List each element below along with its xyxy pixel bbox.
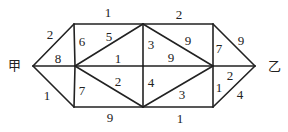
edge-weight-label: 2 [115,74,122,89]
edge-weight-label: 1 [44,88,51,103]
edge-weight-label: 9 [238,33,245,48]
node-label-jia: 甲 [8,58,21,73]
edge-A-B [74,24,75,66]
edge-jia-C [33,66,74,107]
edge-weight-label: 2 [227,68,234,83]
edge-weight-label: 1 [115,51,122,66]
edge-weight-label: 1 [105,5,112,20]
edge-weight-label: 3 [148,37,155,52]
edge-weight-label: 2 [176,7,183,22]
edge-jia-A [33,24,74,66]
edge-weight-label: 8 [55,51,62,66]
graph-diagram: 2811291675123499371924 甲乙 [0,0,288,132]
edge-weight-label: 2 [47,27,54,42]
edge-weight-label: 9 [107,110,114,125]
edge-weight-label: 5 [106,29,113,44]
edge-weight-label: 7 [79,83,86,98]
edge-weight-label: 6 [79,34,86,49]
edge-B-C [74,66,75,107]
edge-weight-label: 1 [216,80,223,95]
edge-weight-label: 7 [216,41,223,56]
edge-weight-label: 4 [237,87,244,102]
edge-weight-label: 9 [185,33,192,48]
edge-weight-label: 9 [168,50,175,65]
edge-weight-label: 3 [179,87,186,102]
node-label-yi: 乙 [268,59,281,74]
edge-weight-label: 1 [177,111,184,126]
edge-weight-label: 4 [148,75,155,90]
